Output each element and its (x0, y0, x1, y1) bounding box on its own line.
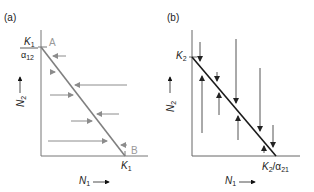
panel-b-x-axis-title: N1 (225, 175, 255, 187)
panel-b-isocline (192, 57, 276, 156)
panel-a-x-axis-title: N1 (79, 175, 109, 187)
svg-text:N2: N2 (165, 101, 177, 112)
panel-b-y-axis-title: N2 (165, 77, 177, 112)
panel-b: (b) K2 K2/α21 N2 N1 (165, 12, 300, 187)
panel-a-label: (a) (4, 12, 16, 23)
lotka-volterra-isoclines-figure: (a) K1 α12 A B K1 N2 N1 (0, 0, 314, 192)
panel-b-label: (b) (167, 12, 179, 23)
point-a-label: A (49, 37, 56, 48)
svg-text:N2: N2 (15, 96, 27, 107)
panel-b-k2-alpha21-label: K2/α21 (262, 161, 289, 173)
svg-text:N1: N1 (225, 175, 236, 187)
panel-a-isocline (41, 47, 125, 156)
panel-a-alpha12-label: α12 (21, 50, 34, 61)
svg-text:N1: N1 (79, 175, 90, 187)
point-b-label: B (131, 145, 138, 156)
panel-a-k1-x-label: K1 (121, 160, 132, 172)
panel-b-k2-label: K2 (176, 50, 187, 62)
panel-a-k1-label: K1 (24, 36, 35, 48)
panel-a: (a) K1 α12 A B K1 N2 N1 (4, 12, 148, 187)
panel-a-y-axis-title: N2 (15, 77, 27, 107)
